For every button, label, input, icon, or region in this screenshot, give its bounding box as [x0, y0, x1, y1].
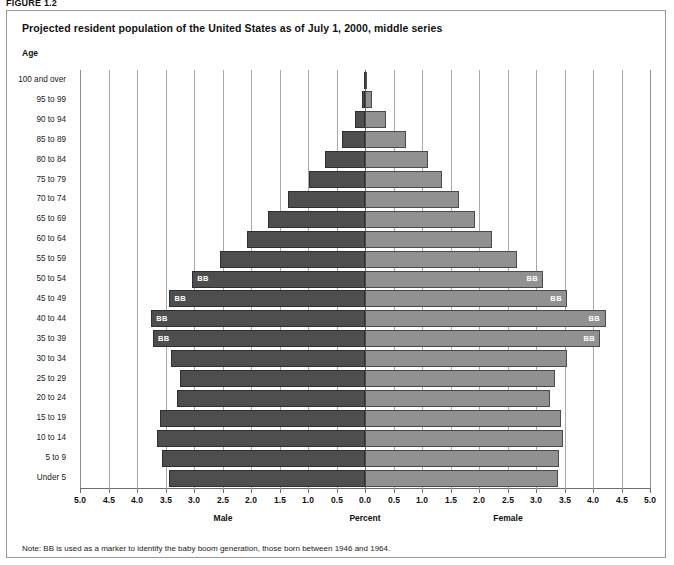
axis-label-age: Age [22, 48, 38, 58]
bar-female [365, 410, 561, 427]
figure-container: FIGURE 1.2 Projected resident population… [0, 0, 674, 565]
bar-male [342, 131, 365, 148]
bar-female [365, 111, 386, 128]
bb-marker-female: BB [583, 333, 595, 344]
age-group-label: 55 to 59 [36, 249, 66, 269]
age-group-label: Under 5 [37, 468, 66, 488]
caption-percent: Percent [349, 513, 380, 523]
bb-marker-female: BB [589, 313, 601, 324]
pyramid-row: 95 to 99 [80, 90, 650, 110]
bar-female [365, 271, 543, 288]
age-group-label: 80 to 84 [36, 150, 66, 170]
pyramid-row: 75 to 79 [80, 170, 650, 190]
age-group-label: 75 to 79 [36, 170, 66, 190]
age-group-label: 90 to 94 [36, 110, 66, 130]
x-axis-tick [109, 489, 110, 493]
pyramid-row: 50 to 54BBBB [80, 269, 650, 289]
x-axis-tick-label: 0.5 [388, 495, 400, 505]
bar-male [169, 290, 365, 307]
age-group-label: 35 to 39 [36, 329, 66, 349]
x-axis-tick [565, 489, 566, 493]
x-axis-tick [280, 489, 281, 493]
bar-female [365, 450, 559, 467]
figure-number: FIGURE 1.2 [6, 0, 57, 8]
bar-female [365, 131, 406, 148]
x-axis-tick-label: 1.0 [302, 495, 314, 505]
bar-male [180, 370, 365, 387]
x-axis-tick [223, 489, 224, 493]
pyramid-row: 30 to 34 [80, 349, 650, 369]
bar-female [365, 310, 606, 327]
bar-male [169, 470, 365, 487]
x-axis-tick-label: 3.0 [188, 495, 200, 505]
pyramid-row: Under 5 [80, 468, 650, 488]
x-axis-tick [194, 489, 195, 493]
x-axis-tick [508, 489, 509, 493]
bar-male [171, 350, 365, 367]
x-axis-tick-label: 0.0 [359, 495, 371, 505]
pyramid-row: 10 to 14 [80, 428, 650, 448]
pyramid-row: 70 to 74 [80, 189, 650, 209]
x-axis-tick-label: 4.0 [587, 495, 599, 505]
bar-female [365, 330, 600, 347]
bar-male [157, 430, 365, 447]
x-axis-tick-label: 5.0 [644, 495, 656, 505]
age-group-label: 70 to 74 [36, 189, 66, 209]
bar-female [365, 290, 567, 307]
age-group-label: 45 to 49 [36, 289, 66, 309]
bar-female [365, 191, 459, 208]
x-axis-tick-label: 1.5 [445, 495, 457, 505]
age-group-label: 40 to 44 [36, 309, 66, 329]
caption-male: Male [214, 513, 233, 523]
bb-marker-male: BB [197, 273, 209, 284]
bar-male [247, 231, 365, 248]
age-group-label: 50 to 54 [36, 269, 66, 289]
x-axis-tick [337, 489, 338, 493]
age-group-label: 25 to 29 [36, 369, 66, 389]
age-group-label: 15 to 19 [36, 408, 66, 428]
bar-male [153, 330, 365, 347]
pyramid-row: 100 and over [80, 70, 650, 90]
bar-male [162, 450, 365, 467]
x-axis-tick-label: 4.5 [103, 495, 115, 505]
pyramid-row: 5 to 9 [80, 448, 650, 468]
pyramid-row: 85 to 89 [80, 130, 650, 150]
age-group-label: 85 to 89 [36, 130, 66, 150]
x-axis-tick-label: 1.5 [274, 495, 286, 505]
x-axis-tick [166, 489, 167, 493]
x-axis-tick-label: 3.5 [160, 495, 172, 505]
x-axis-tick-label: 1.0 [416, 495, 428, 505]
pyramid-row: 45 to 49BBBB [80, 289, 650, 309]
age-group-label: 30 to 34 [36, 349, 66, 369]
age-group-label: 60 to 64 [36, 229, 66, 249]
bar-female [365, 171, 442, 188]
x-axis-tick-label: 5.0 [74, 495, 86, 505]
figure-note: Note: BB is used as a marker to identify… [22, 544, 390, 553]
bb-marker-female: BB [550, 293, 562, 304]
pyramid-row: 60 to 64 [80, 229, 650, 249]
population-pyramid-plot: 100 and over95 to 9990 to 9485 to 8980 t… [80, 70, 650, 488]
x-axis-tick-label: 2.0 [245, 495, 257, 505]
age-group-label: 100 and over [18, 70, 66, 90]
x-axis-tick [308, 489, 309, 493]
x-axis-tick [80, 489, 81, 493]
plot-right-border [650, 70, 651, 489]
x-axis-tick-label: 3.0 [530, 495, 542, 505]
chart-title: Projected resident population of the Uni… [22, 22, 442, 34]
bar-female [365, 251, 517, 268]
bar-male [160, 410, 365, 427]
bar-female [365, 390, 550, 407]
x-axis-tick [650, 489, 651, 493]
pyramid-row: 80 to 84 [80, 150, 650, 170]
x-axis-tick-label: 0.5 [331, 495, 343, 505]
bar-female [365, 470, 558, 487]
bar-male [220, 251, 365, 268]
x-axis-tick-label: 2.5 [217, 495, 229, 505]
bar-male [177, 390, 365, 407]
age-group-label: 5 to 9 [46, 448, 67, 468]
bb-marker-male: BB [174, 293, 186, 304]
x-axis-tick [622, 489, 623, 493]
bar-female [365, 430, 563, 447]
pyramid-row: 20 to 24 [80, 388, 650, 408]
pyramid-row: 15 to 19 [80, 408, 650, 428]
